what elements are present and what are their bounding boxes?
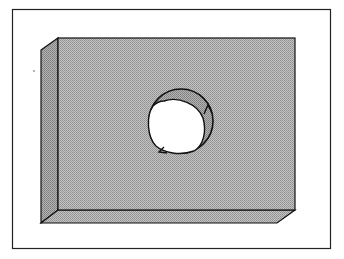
diagram-canvas [0, 0, 344, 259]
slab-bottom-face [41, 210, 295, 223]
slab-left-face [41, 38, 58, 223]
hole [148, 89, 213, 153]
stray-dot [33, 70, 35, 72]
